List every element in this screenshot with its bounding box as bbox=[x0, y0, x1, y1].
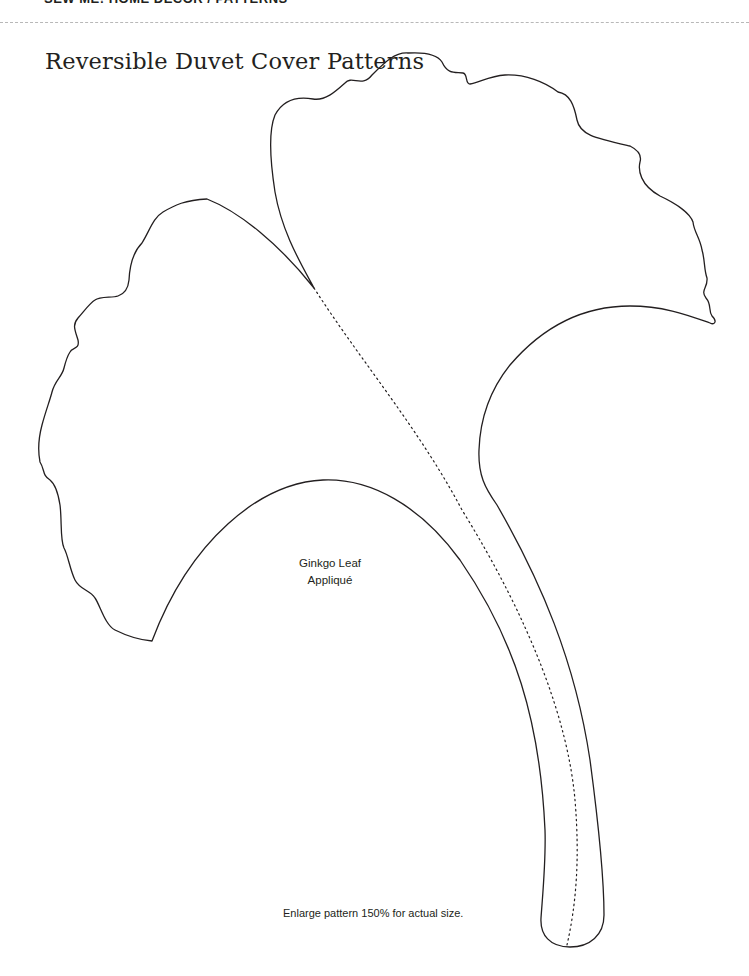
piece-name-line1: Ginkgo Leaf bbox=[255, 555, 405, 572]
center-vein-dotted-line bbox=[314, 288, 577, 945]
enlarge-instruction: Enlarge pattern 150% for actual size. bbox=[283, 907, 463, 919]
piece-name-line2: Appliqué bbox=[255, 572, 405, 589]
piece-label: Ginkgo Leaf Appliqué bbox=[255, 555, 405, 589]
ginkgo-leaf-pattern bbox=[0, 0, 749, 976]
leaf-outline bbox=[39, 53, 715, 947]
